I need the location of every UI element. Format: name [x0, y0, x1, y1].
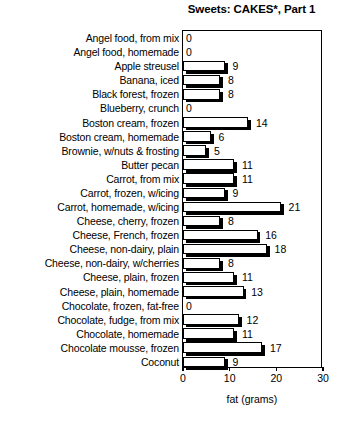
bar-body: [183, 314, 239, 325]
bar-row: Cheese, cherry, frozen8: [183, 214, 321, 228]
bar-category-label: Blueberry, crunch: [100, 101, 179, 115]
bar-row: Chocolate, fudge, from mix12: [183, 313, 321, 327]
bar-row: Cheese, plain, homemade13: [183, 285, 321, 299]
bar-value-label: 9: [233, 186, 239, 200]
bar-row: Cheese, non-dairy, plain18: [183, 242, 321, 256]
bar-category-label: Chocolate mousse, frozen: [61, 341, 179, 355]
bar-row: Boston cream, frozen14: [183, 116, 321, 130]
bar-value-label: 8: [228, 256, 234, 270]
bar-category-label: Chocolate, homemade: [76, 327, 179, 341]
bar-row: Carrot, from mix11: [183, 172, 321, 186]
bar-category-label: Angel food, homemade: [73, 45, 179, 59]
bar-category-label: Cheese, plain, frozen: [83, 270, 179, 284]
bar: [183, 188, 225, 199]
bar: [183, 131, 211, 142]
bar-row: Blueberry, crunch0: [183, 101, 321, 115]
bar: [183, 272, 234, 283]
bar-value-label: 11: [242, 158, 253, 172]
bar-body: [183, 258, 220, 269]
bar-value-label: 6: [219, 130, 225, 144]
bar-row: Black forest, frozen8: [183, 87, 321, 101]
bar-row: Cheese, non-dairy, w/cherries8: [183, 256, 321, 270]
bar: [183, 89, 220, 100]
bar-body: [183, 342, 262, 353]
bar-body: [183, 159, 234, 170]
bar-value-label: 8: [228, 214, 234, 228]
x-axis-tick: [322, 367, 324, 371]
bar-value-label: 18: [275, 242, 287, 256]
bar: [183, 244, 267, 255]
bar-value-label: 11: [242, 327, 253, 341]
bar: [183, 61, 225, 72]
bar-body: [183, 244, 267, 255]
bar-value-label: 17: [270, 341, 282, 355]
bar-value-label: 13: [251, 285, 263, 299]
bar-body: [183, 173, 234, 184]
bar-row: Apple streusel9: [183, 59, 321, 73]
bar: [183, 230, 258, 241]
x-axis-tick-label: 30: [317, 372, 329, 384]
bar-row: Cheese, plain, frozen11: [183, 270, 321, 284]
bar: [183, 342, 262, 353]
bar-row: Angel food, from mix0: [183, 31, 321, 45]
bar: [183, 357, 225, 368]
bar-body: [183, 75, 220, 86]
bar: [183, 75, 220, 86]
bar-category-label: Apple streusel: [115, 59, 179, 73]
bar-value-label: 14: [256, 116, 268, 130]
bar-category-label: Banana, iced: [120, 73, 180, 87]
bar-category-label: Butter pecan: [121, 158, 179, 172]
bar-value-label: 0: [186, 299, 192, 313]
x-axis-tick: [182, 367, 184, 371]
bar: [183, 173, 234, 184]
bar-row: Chocolate mousse, frozen17: [183, 341, 321, 355]
bar-row: Coconut9: [183, 355, 321, 369]
bar-value-label: 12: [247, 313, 259, 327]
bar-body: [183, 328, 234, 339]
bar: [183, 159, 234, 170]
bar-value-label: 11: [242, 172, 253, 186]
bar-category-label: Cheese, French, frozen: [73, 228, 179, 242]
bar-value-label: 5: [214, 144, 220, 158]
bar-category-label: Cheese, non-dairy, w/cherries: [45, 256, 179, 270]
bar-category-label: Cheese, plain, homemade: [60, 285, 179, 299]
bar-row: Butter pecan11: [183, 158, 321, 172]
bar-body: [183, 216, 220, 227]
bar-body: [183, 89, 220, 100]
bar-category-label: Black forest, frozen: [92, 87, 179, 101]
x-axis-label: fat (grams): [182, 393, 322, 405]
x-axis-tick-label: 0: [180, 372, 186, 384]
bar-value-label: 0: [186, 31, 192, 45]
bar-category-label: Cheese, non-dairy, plain: [70, 242, 179, 256]
bar-row: Brownie, w/nuts & frosting5: [183, 144, 321, 158]
bar-body: [183, 357, 225, 368]
bar-value-label: 0: [186, 101, 192, 115]
bar-row: Chocolate, frozen, fat-free0: [183, 299, 321, 313]
bar: [183, 258, 220, 269]
bar-row: Banana, iced8: [183, 73, 321, 87]
bar-value-label: 9: [233, 59, 239, 73]
bar-value-label: 11: [242, 270, 253, 284]
bar-row: Carrot, homemade, w/icing21: [183, 200, 321, 214]
bar: [183, 314, 239, 325]
bar: [183, 202, 281, 213]
bar-row: Angel food, homemade0: [183, 45, 321, 59]
chart-container: Sweets: CAKES*, Part 1 Angel food, from …: [0, 0, 346, 421]
x-axis-tick-label: 10: [224, 372, 236, 384]
bar: [183, 328, 234, 339]
bar: [183, 216, 220, 227]
bar-category-label: Carrot, frozen, w/icing: [80, 186, 179, 200]
x-axis-tick-label: 20: [270, 372, 282, 384]
bar-value-label: 8: [228, 87, 234, 101]
bar-value-label: 8: [228, 73, 234, 87]
bar-value-label: 0: [186, 45, 192, 59]
bar: [183, 117, 248, 128]
bar-category-label: Boston cream, frozen: [82, 116, 179, 130]
bar: [183, 145, 206, 156]
bar-category-label: Chocolate, frozen, fat-free: [62, 299, 179, 313]
bar-body: [183, 272, 234, 283]
bar-value-label: 21: [289, 200, 301, 214]
bar-row: Boston cream, homemade6: [183, 130, 321, 144]
bar-value-label: 9: [233, 355, 239, 369]
bar: [183, 286, 244, 297]
